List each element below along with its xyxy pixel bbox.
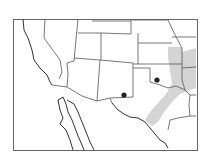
marker-site-1: [121, 92, 126, 97]
map-frame: [14, 20, 198, 151]
marker-site-2: [154, 77, 159, 82]
range-map: [0, 0, 209, 160]
map-canvas: [0, 0, 209, 160]
